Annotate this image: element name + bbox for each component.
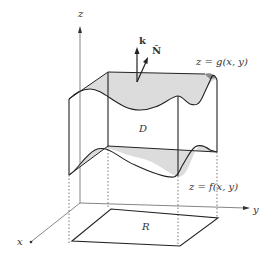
normal-vector-label: N̂ xyxy=(152,46,161,56)
k-vector-label: k xyxy=(139,36,146,46)
x-axis-label: x xyxy=(17,237,23,247)
bottom-surface-label: z = f(x, y) xyxy=(189,182,238,192)
top-surface-label: z = g(x, y) xyxy=(196,57,248,67)
bottom-surface xyxy=(69,146,217,178)
x-axis xyxy=(30,203,80,243)
y-axis xyxy=(80,203,250,210)
z-axis-label: z xyxy=(78,9,83,19)
z-axis xyxy=(78,26,82,203)
diagram-canvas xyxy=(0,0,273,257)
region-d-label: D xyxy=(139,124,147,134)
region-r-label: R xyxy=(142,222,150,232)
y-axis-label: y xyxy=(253,205,259,215)
top-surface xyxy=(69,72,217,110)
